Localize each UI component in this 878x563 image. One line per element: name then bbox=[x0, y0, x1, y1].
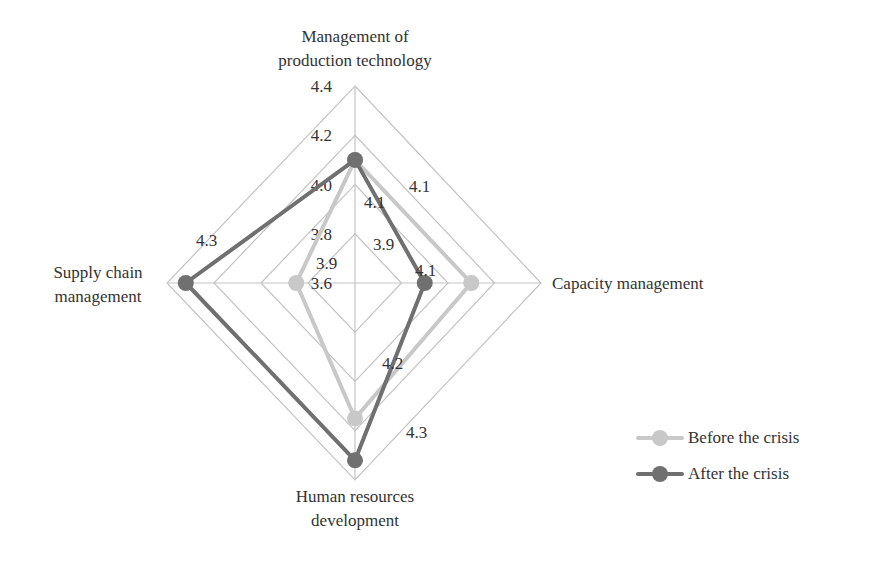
data-label: 4.3 bbox=[196, 231, 217, 250]
axis-label: Human resourcesdevelopment bbox=[296, 487, 415, 530]
data-point bbox=[347, 152, 363, 168]
tick-label: 3.6 bbox=[311, 274, 332, 293]
axis-label: Supply chainmanagement bbox=[53, 263, 143, 306]
data-label: 4.1 bbox=[364, 193, 385, 212]
data-label: 3.9 bbox=[373, 235, 394, 254]
data-point bbox=[347, 452, 363, 468]
data-label: 4.1 bbox=[409, 177, 430, 196]
data-series bbox=[178, 152, 479, 468]
data-label: 4.1 bbox=[415, 261, 436, 280]
data-point bbox=[347, 410, 363, 426]
legend-item-after: After the crisis bbox=[636, 456, 799, 492]
series-line bbox=[186, 160, 425, 460]
data-point bbox=[463, 275, 479, 291]
axis-label: Management ofproduction technology bbox=[278, 27, 432, 70]
axis-label: Capacity management bbox=[552, 274, 704, 293]
data-label: 4.2 bbox=[382, 354, 403, 373]
legend-label-after: After the crisis bbox=[688, 464, 789, 484]
data-label: 4.3 bbox=[406, 423, 427, 442]
tick-label: 4.2 bbox=[311, 126, 332, 145]
data-label: 3.9 bbox=[316, 254, 337, 273]
tick-label: 4.4 bbox=[311, 77, 333, 96]
legend-marker-after-icon bbox=[636, 465, 684, 483]
legend-label-before: Before the crisis bbox=[688, 428, 799, 448]
legend-marker-before-icon bbox=[636, 429, 684, 447]
data-point bbox=[288, 275, 304, 291]
data-labels: 4.14.13.94.14.24.34.33.9 bbox=[196, 177, 436, 442]
legend: Before the crisis After the crisis bbox=[636, 420, 799, 492]
data-point bbox=[178, 275, 194, 291]
legend-item-before: Before the crisis bbox=[636, 420, 799, 456]
